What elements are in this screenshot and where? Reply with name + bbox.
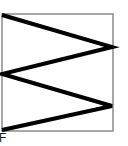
figure-container: F bbox=[0, 0, 128, 146]
figure-caption-label: F bbox=[0, 131, 6, 145]
zigzag-figure bbox=[0, 0, 128, 146]
